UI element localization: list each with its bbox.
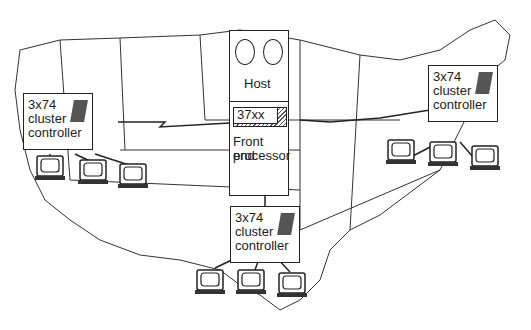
terminal-icon <box>386 140 416 164</box>
terminal-icon <box>277 273 307 297</box>
terminal-icon <box>195 270 225 294</box>
terminal-icon <box>236 270 266 294</box>
terminal-icon <box>35 156 65 180</box>
terminal-icon <box>428 142 458 166</box>
terminals <box>0 0 531 330</box>
terminal-icon <box>78 160 108 184</box>
terminal-icon <box>118 164 148 188</box>
terminal-icon <box>470 146 500 170</box>
